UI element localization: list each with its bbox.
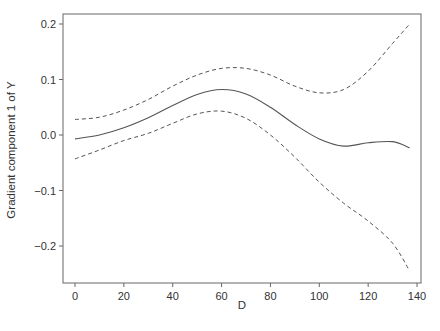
x-tick-label: 20	[118, 290, 130, 302]
x-tick-label: 140	[408, 290, 426, 302]
y-tick-label: −0.2	[34, 240, 56, 252]
x-tick-label: 80	[264, 290, 276, 302]
y-tick-label: 0.0	[41, 129, 56, 141]
x-axis: 020406080100120140	[72, 283, 426, 302]
x-tick-label: 60	[215, 290, 227, 302]
y-axis: 0.20.10.0−0.1−0.2	[34, 18, 63, 252]
plot-lines	[75, 24, 410, 271]
estimate-line	[75, 89, 410, 147]
upper-band-line	[75, 24, 410, 119]
y-axis-label: Gradient component 1 of Y	[5, 81, 17, 219]
y-tick-label: 0.2	[41, 18, 56, 30]
x-tick-label: 120	[359, 290, 377, 302]
x-tick-label: 40	[167, 290, 179, 302]
x-tick-label: 0	[72, 290, 78, 302]
chart: 020406080100120140 0.20.10.0−0.1−0.2 D G…	[0, 0, 440, 331]
x-axis-label: D	[238, 299, 246, 311]
lower-band-line	[75, 111, 410, 271]
y-tick-label: −0.1	[34, 185, 56, 197]
y-tick-label: 0.1	[41, 74, 56, 86]
x-tick-label: 100	[310, 290, 328, 302]
plot-frame	[63, 14, 421, 283]
